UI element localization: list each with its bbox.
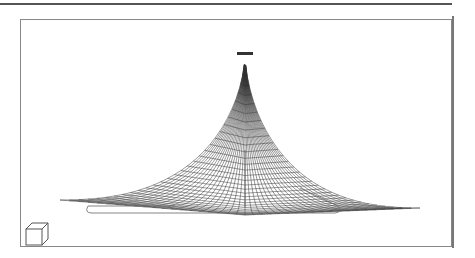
surface-mesh: [60, 52, 420, 215]
mesh-line: [60, 64, 244, 200]
view-cube-icon[interactable]: [26, 223, 48, 245]
peak-cap: [237, 52, 253, 55]
wireframe-surface[interactable]: [0, 0, 475, 258]
mesh-line: [246, 65, 412, 208]
mesh-line: [245, 65, 280, 214]
mesh-line: [199, 156, 288, 165]
mesh-line: [69, 64, 244, 200]
mesh-line: [246, 65, 420, 208]
mesh-line: [153, 65, 245, 208]
mesh-line: [79, 65, 245, 202]
mesh-line: [193, 161, 293, 170]
mesh-line: [175, 175, 312, 185]
mesh-line: [246, 65, 386, 209]
mesh-line: [245, 65, 332, 212]
mesh-line: [246, 65, 403, 209]
mesh-line: [246, 65, 394, 209]
